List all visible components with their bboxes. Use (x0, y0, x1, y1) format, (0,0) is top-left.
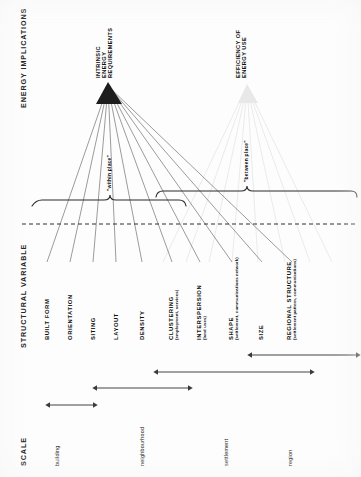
label-text: BUILT FORM (44, 299, 50, 340)
structural-variable-size: SIZE (258, 325, 264, 340)
label-text: LAYOUT (113, 313, 119, 340)
label-text: ORIENTATION (67, 294, 73, 340)
structural-variable-regional-structure: REGIONAL STRUCTURE (settlement pattern, … (286, 259, 297, 340)
apex-label-intrinsic-energy-requirements: INTRINSIC ENERGY REQUIREMENTS (96, 28, 114, 78)
brace-between-place (156, 186, 357, 197)
apex-label-efficiency-of-energy-use: EFFICIENCY OF ENERGY USE (236, 30, 248, 78)
brace-label-within-place: "within place" (107, 155, 112, 191)
heading-energy-implications: ENERGY IMPLICATIONS (20, 8, 28, 108)
label-text: DENSITY (139, 311, 145, 340)
brace-within-place (32, 195, 186, 206)
scale-label-region: region (288, 450, 294, 467)
fan-apex-efficiency (238, 84, 258, 103)
apex-line-2: ENERGY USE (242, 30, 248, 78)
scale-label-settlement: settlement (224, 439, 230, 466)
scale-label-building: building (55, 445, 61, 466)
structural-variable-siting: SITING (90, 317, 96, 340)
apex-line-3: REQUIREMENTS (108, 28, 114, 78)
structural-variable-layout: LAYOUT (113, 313, 119, 340)
heading-structural-variable: STRUCTURAL VARIABLE (20, 244, 28, 348)
structural-variable-clustering: CLUSTERING (employment, services) (168, 290, 179, 340)
label-sub: (settlement, communications network) (235, 257, 240, 340)
diagram-canvas: ENERGY IMPLICATIONS STRUCTURAL VARIABLE … (0, 0, 361, 477)
brace-label-between-place: "between place" (244, 140, 249, 182)
structural-variable-orientation: ORIENTATION (67, 294, 73, 340)
structural-variable-built-form: BUILT FORM (44, 299, 50, 340)
structural-variable-shape: SHAPE (settlement, communications networ… (228, 257, 239, 340)
label-text: SIZE (258, 325, 264, 340)
label-sub: (land uses) (203, 285, 208, 340)
structural-variable-interspersion: INTERSPERSION (land uses) (196, 285, 207, 340)
label-sub: (employment, services) (175, 290, 180, 340)
label-text: SITING (90, 317, 96, 340)
label-sub: (settlement pattern, communications) (293, 259, 298, 340)
fan-intrinsic-energy-requirements (47, 86, 292, 262)
scale-label-neighbourhood: neighbourhood (140, 427, 146, 466)
structural-variable-density: DENSITY (139, 311, 145, 340)
heading-scale: SCALE (20, 437, 28, 466)
fan-lines-layer (0, 0, 361, 477)
fan-apex-intrinsic (96, 82, 122, 104)
